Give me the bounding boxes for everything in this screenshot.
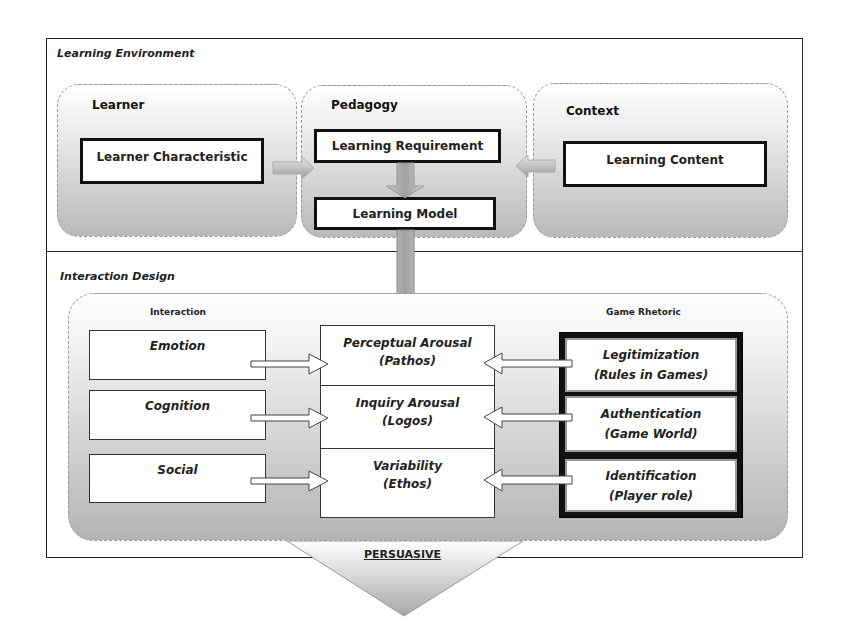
arrow-left-icon [484,469,572,491]
arrow-left-icon [484,407,572,428]
persuasive-label: PERSUASIVE [364,548,441,561]
arrow-left-icon [484,353,572,374]
arrow-right-icon [251,408,328,428]
arrow-right-icon [251,471,328,491]
arrow-right-icon [251,354,328,374]
